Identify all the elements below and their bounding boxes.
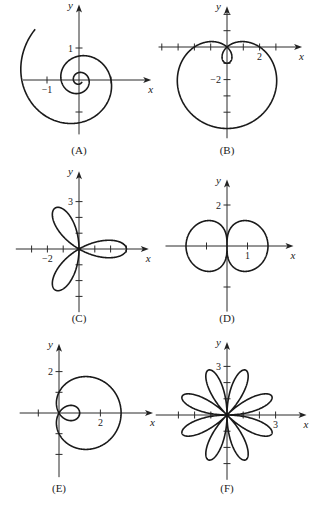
panel-f: xy33(F) (156, 336, 309, 495)
x-axis-label: x (149, 416, 155, 428)
y-axis-label: y (47, 338, 53, 350)
y-axis-label: y (215, 336, 221, 348)
polar-curves-figure: xy−11(A)xy2−2(B)xy−23(C)xy12(D)xy22(E)xy… (0, 0, 313, 505)
panel-c: xy−23(C) (16, 165, 151, 325)
x-axis-label: x (147, 83, 153, 95)
y-tick-label: 1 (68, 43, 73, 54)
x-axis-label: x (298, 50, 304, 62)
x-tick-label: 3 (273, 419, 278, 430)
y-tick-label: 3 (216, 361, 221, 372)
y-tick-label: −2 (210, 74, 221, 85)
polar-curve (21, 29, 112, 123)
panel-a: xy−11(A) (21, 0, 153, 157)
y-axis-label: y (215, 174, 221, 186)
x-axis-label: x (145, 252, 151, 264)
panel-caption: (D) (219, 312, 235, 325)
panel-caption: (C) (72, 312, 87, 325)
panel-d: xy12(D) (166, 174, 296, 326)
panel-caption: (B) (220, 144, 235, 157)
y-axis-label: y (67, 0, 73, 11)
panel-caption: (E) (52, 482, 66, 495)
panel-e: xy22(E) (20, 338, 155, 495)
y-axis-label: y (215, 0, 221, 12)
x-axis-label: x (303, 418, 309, 430)
y-tick-label: 3 (68, 196, 73, 207)
panel-caption: (A) (71, 144, 87, 157)
x-tick-label: 2 (98, 417, 103, 428)
x-tick-label: 2 (257, 51, 262, 62)
y-axis-label: y (67, 165, 73, 177)
x-tick-label: −1 (42, 84, 53, 95)
x-axis-label: x (290, 249, 296, 261)
x-tick-label: 1 (245, 250, 250, 261)
panel-b: xy2−2(B) (159, 0, 305, 157)
panel-caption: (F) (220, 482, 234, 495)
x-tick-label: −2 (42, 253, 53, 264)
y-tick-label: 2 (48, 366, 53, 377)
y-tick-label: 2 (216, 200, 221, 211)
